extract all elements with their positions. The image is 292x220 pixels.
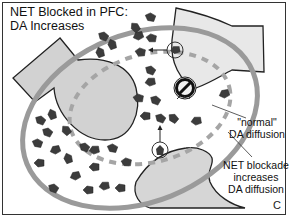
panel-letter: C [273, 199, 281, 211]
left-neuron-cell [13, 38, 138, 140]
title-line-1: NET Blocked in PFC: [10, 5, 128, 19]
blockade-label-line-3: DA diffusion [218, 183, 292, 195]
blockade-label-line-2: increases [218, 171, 292, 183]
blockade-diffusion-label: NET blockade increases DA diffusion [218, 159, 292, 195]
blocked-net-icon [174, 77, 196, 99]
upper-right-terminal [172, 8, 264, 88]
normal-label-line-2: DA diffusion [222, 128, 292, 140]
normal-diffusion-label: "normal" DA diffusion [222, 116, 292, 140]
title-line-2: DA Increases [10, 19, 128, 33]
figure-title: NET Blocked in PFC: DA Increases [10, 5, 128, 33]
normal-label-line-1: "normal" [222, 116, 292, 128]
blockade-label-line-1: NET blockade [218, 159, 292, 171]
